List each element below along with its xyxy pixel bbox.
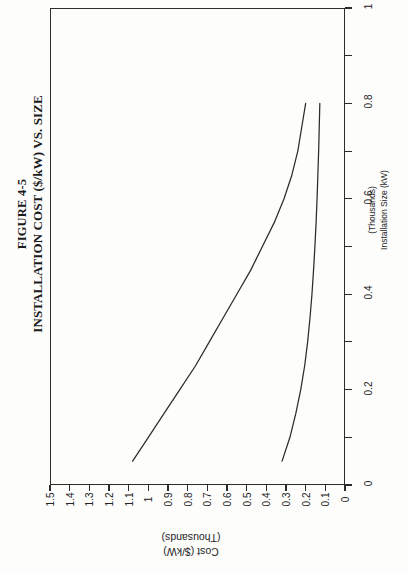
- size-axis-tick-label: 0.8: [363, 89, 374, 115]
- size-axis-title-main: Installation Size (kW): [378, 140, 390, 280]
- figure-title-block: FIGURE 4-5 INSTALLATION COST ($/kW) VS. …: [14, 14, 50, 414]
- cost-axis-tick-label: 0.8: [182, 485, 193, 515]
- cost-axis-tick-label: 1.1: [123, 485, 134, 515]
- size-axis-tick-mark: [345, 294, 352, 295]
- cost-axis-tick-label: 0.5: [241, 485, 252, 515]
- cost-axis-tick-label: 1.5: [45, 485, 56, 515]
- size-axis-title-sub: (Thousands): [366, 140, 378, 280]
- size-axis-tick-mark: [345, 151, 352, 152]
- cost-axis-title-sub: (Thousands): [116, 530, 266, 544]
- size-axis-tick-label: 0.4: [363, 280, 374, 306]
- size-axis-tick-mark: [345, 7, 352, 8]
- cost-axis-tick-label: 0.7: [202, 485, 213, 515]
- cost-axis-tick-label: 0.2: [300, 485, 311, 515]
- cost-axis-tick-label: 1.4: [64, 485, 75, 515]
- size-axis-title: (Thousands) Installation Size (kW): [366, 140, 394, 280]
- cost-axis-title: Cost ($/kW) (Thousands): [116, 530, 266, 558]
- size-axis-tick-mark: [345, 389, 352, 390]
- cost-axis-tick-label: 1.2: [104, 485, 115, 515]
- size-axis-tick-mark: [345, 437, 352, 438]
- size-axis-tick-label: 0.2: [363, 375, 374, 401]
- size-axis-tick-mark: [345, 246, 352, 247]
- size-axis-tick-mark: [345, 341, 352, 342]
- cost-axis-title-main: Cost ($/kW): [116, 544, 266, 558]
- cost-axis-tick-label: 0.4: [261, 485, 272, 515]
- cost-axis-tick-label: 1: [143, 485, 154, 515]
- page-title: INSTALLATION COST ($/kW) VS. SIZE: [30, 14, 47, 414]
- upper-cost-curve: [133, 103, 306, 461]
- size-axis-tick-mark: [345, 198, 352, 199]
- lower-cost-curve: [282, 103, 320, 461]
- cost-axis-tick-label: 0.6: [222, 485, 233, 515]
- size-axis-tick-mark: [345, 55, 352, 56]
- cost-axis-tick-label: 0: [340, 485, 351, 515]
- cost-axis-tick-label: 0.1: [320, 485, 331, 515]
- size-axis-tick-label: 0: [363, 471, 374, 497]
- figure-number: FIGURE 4-5: [14, 14, 30, 414]
- plot-frame: [50, 8, 345, 485]
- size-axis-tick-mark: [345, 484, 352, 485]
- cost-axis-tick-label: 1.3: [84, 485, 95, 515]
- size-axis-tick-mark: [345, 103, 352, 104]
- size-axis-tick-label: 1: [363, 0, 374, 20]
- cost-axis-tick-label: 0.9: [163, 485, 174, 515]
- cost-axis-tick-label: 0.3: [281, 485, 292, 515]
- chart-plot-area: [50, 8, 345, 485]
